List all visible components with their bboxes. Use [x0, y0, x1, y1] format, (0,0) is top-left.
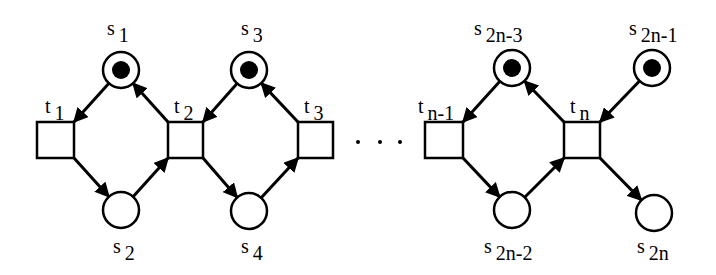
arc-s3-to-t2	[203, 83, 237, 122]
token-icon	[643, 59, 661, 77]
label-tn: tn	[570, 96, 590, 116]
label-s2: s2	[113, 236, 135, 256]
label-base: s	[474, 17, 482, 39]
label-t1: t1	[45, 96, 65, 116]
transitions-group	[37, 122, 600, 158]
label-subscript: 3	[314, 102, 324, 124]
label-s1: s1	[107, 18, 129, 38]
label-subscript: n-1	[428, 102, 455, 124]
label-subscript: 4	[253, 242, 263, 264]
label-base: t	[570, 95, 576, 117]
label-base: t	[418, 95, 424, 117]
arc-tn-to-s2n-3	[524, 81, 564, 122]
arc-tn-1-to-s2n-2	[463, 158, 500, 197]
token-icon	[112, 61, 130, 79]
label-tn-1: tn-1	[418, 96, 454, 116]
arc-tn-to-s2n	[600, 158, 641, 200]
label-subscript: 1	[55, 102, 65, 124]
arc-s2n-1-to-tn	[600, 81, 640, 122]
petri-net-diagram	[0, 0, 716, 275]
ellipsis-dot	[356, 140, 360, 144]
label-base: s	[484, 235, 492, 257]
arc-s1-to-t1	[74, 83, 109, 122]
label-base: t	[304, 95, 310, 117]
transition-t2	[168, 122, 203, 158]
arc-s2n-3-to-tn-1	[463, 81, 500, 122]
arc-t2-to-s4	[203, 158, 237, 197]
place-s4	[231, 193, 267, 229]
arc-s2-to-t2	[133, 158, 168, 197]
label-subscript: 2	[125, 242, 135, 264]
label-subscript: 2n-3	[486, 24, 523, 46]
transition-tn	[564, 122, 600, 158]
label-subscript: 2n-2	[496, 242, 533, 264]
transition-t3	[298, 122, 333, 158]
label-base: s	[107, 17, 115, 39]
label-base: t	[45, 95, 51, 117]
label-base: s	[113, 235, 121, 257]
label-base: s	[629, 17, 637, 39]
transition-t1	[37, 122, 74, 158]
token-icon	[503, 59, 521, 77]
token-icon	[240, 61, 258, 79]
label-s2n-3: s2n-3	[474, 18, 522, 38]
label-base: t	[174, 95, 180, 117]
arc-t1-to-s2	[74, 158, 109, 197]
arc-t2-to-s1	[133, 83, 168, 122]
label-subscript: 3	[253, 24, 263, 46]
arc-s4-to-t3	[261, 158, 298, 198]
label-s2n-2: s2n-2	[484, 236, 532, 256]
place-s2n-2	[494, 192, 530, 228]
label-subscript: 1	[119, 24, 129, 46]
label-base: s	[241, 235, 249, 257]
label-subscript: 2n	[649, 242, 669, 264]
label-base: s	[241, 17, 249, 39]
ellipsis-dot	[398, 140, 402, 144]
label-subscript: 2n-1	[641, 24, 678, 46]
ellipsis-dot	[378, 140, 382, 144]
label-t3: t3	[304, 96, 324, 116]
arc-t3-to-s3	[261, 83, 298, 122]
label-subscript: n	[580, 102, 590, 124]
label-s2n: s2n	[637, 236, 669, 256]
label-t2: t2	[174, 96, 194, 116]
transition-tn-1	[425, 122, 463, 158]
place-s2	[103, 192, 139, 228]
label-s3: s3	[241, 18, 263, 38]
arc-s2n-2-to-tn	[525, 158, 564, 197]
place-s2n	[636, 195, 672, 231]
label-subscript: 2	[184, 102, 194, 124]
label-s4: s4	[241, 236, 263, 256]
label-s2n-1: s2n-1	[629, 18, 677, 38]
label-base: s	[637, 235, 645, 257]
